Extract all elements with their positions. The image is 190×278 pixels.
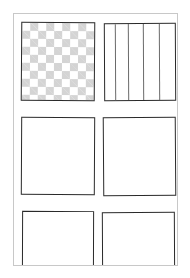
stripe-line bbox=[128, 24, 129, 100]
tile-checkerboard bbox=[21, 22, 96, 102]
tile-empty bbox=[103, 117, 177, 197]
tile-vertical-stripes bbox=[104, 23, 176, 101]
tile-empty bbox=[102, 212, 175, 266]
wireframe-frame bbox=[13, 13, 178, 266]
stripe-line bbox=[115, 24, 116, 100]
tile-empty bbox=[22, 211, 94, 266]
tile-empty bbox=[21, 117, 95, 195]
stripe-line bbox=[143, 24, 144, 100]
stripe-line bbox=[159, 24, 160, 100]
